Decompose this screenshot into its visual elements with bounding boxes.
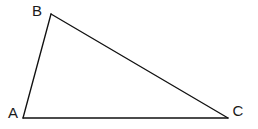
- triangle-figure: A B C: [0, 0, 258, 129]
- triangle-diagram-svg: A B C: [0, 0, 258, 129]
- edge-ab: [23, 14, 51, 118]
- edge-bc: [51, 14, 228, 118]
- vertex-labels: A B C: [8, 2, 244, 121]
- vertex-label-a: A: [8, 104, 18, 121]
- triangle-edges: [23, 14, 228, 118]
- vertex-label-b: B: [32, 2, 42, 19]
- vertex-label-c: C: [233, 102, 244, 119]
